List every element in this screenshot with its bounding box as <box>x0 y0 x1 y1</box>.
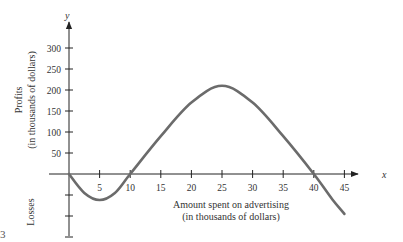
y-tick-label: 100 <box>47 128 62 138</box>
losses-label: Losses <box>25 198 36 225</box>
y-tick-label: 300 <box>47 44 62 54</box>
y-axis-title: Profits <box>13 87 24 114</box>
y-axis-title: (in thousands of dollars) <box>26 51 38 149</box>
x-tick-label: 35 <box>278 183 288 193</box>
x-tick-label: 15 <box>156 183 166 193</box>
y-tick-label: 250 <box>47 65 62 75</box>
y-tick-label: 200 <box>47 86 62 96</box>
figure-number: 3 <box>0 228 6 240</box>
x-tick-label: 45 <box>340 183 350 193</box>
x-axis-title: Amount spent on advertising <box>173 199 289 210</box>
y-axis-variable: y <box>64 10 70 21</box>
profit-curve <box>69 86 344 214</box>
x-tick-label: 30 <box>248 183 258 193</box>
x-tick-label: 10 <box>125 183 135 193</box>
x-tick-label: 5 <box>97 183 102 193</box>
x-axis-variable: x <box>381 169 387 180</box>
y-tick-label: 50 <box>52 149 62 159</box>
x-tick-label: 40 <box>309 183 319 193</box>
x-axis-title: (in thousands of dollars) <box>182 211 280 223</box>
y-tick-label: 150 <box>47 107 62 117</box>
x-tick-label: 25 <box>217 183 227 193</box>
x-tick-label: 20 <box>187 183 197 193</box>
profit-chart: 5101520253035404550100150200250300xyAmou… <box>0 0 403 242</box>
